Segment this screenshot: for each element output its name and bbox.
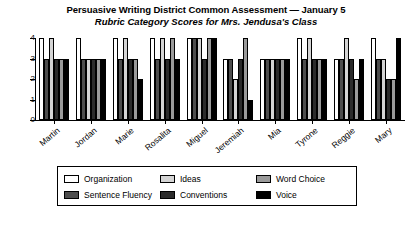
legend-item: Ideas: [160, 171, 256, 187]
x-tick-mark: [165, 120, 166, 124]
legend-item: Sentence Fluency: [64, 187, 160, 203]
legend-label: Word Choice: [276, 175, 325, 184]
y-axis-ticks: 01234: [0, 38, 35, 121]
plot-area: [36, 38, 404, 120]
x-tick-mark: [54, 120, 55, 124]
chart-title: Persuasive Writing District Common Asses…: [0, 4, 412, 16]
x-tick-mark: [349, 120, 350, 124]
legend-swatch-ideas: [160, 175, 175, 183]
bar-group: [113, 38, 143, 120]
x-tick-mark: [312, 120, 313, 124]
bar-group: [334, 38, 364, 120]
bar: [138, 79, 143, 120]
legend: OrganizationIdeasWord ChoiceSentence Flu…: [57, 166, 357, 206]
legend-swatch-conventions: [160, 191, 175, 199]
x-tick-mark: [128, 120, 129, 124]
legend-swatch-sentence-fluency: [64, 191, 79, 199]
x-tick-mark: [275, 120, 276, 124]
bar-group: [297, 38, 327, 120]
chart-container: Persuasive Writing District Common Asses…: [0, 0, 412, 228]
chart-subtitle: Rubric Category Scores for Mrs. Jendusa'…: [0, 16, 412, 28]
bar: [101, 59, 106, 121]
legend-item: Word Choice: [256, 171, 352, 187]
legend-swatch-voice: [256, 191, 271, 199]
legend-label: Conventions: [180, 191, 227, 200]
chart-title-block: Persuasive Writing District Common Asses…: [0, 4, 412, 28]
bar: [175, 59, 180, 121]
bar: [64, 59, 69, 121]
x-tick-mark: [202, 120, 203, 124]
bar-group: [76, 38, 106, 120]
bar: [322, 59, 327, 121]
bar-group: [187, 38, 217, 120]
legend-item: Voice: [256, 187, 352, 203]
legend-label: Sentence Fluency: [84, 191, 152, 200]
bar-group: [223, 38, 253, 120]
bar-group: [39, 38, 69, 120]
x-tick-mark: [386, 120, 387, 124]
x-tick-mark: [238, 120, 239, 124]
legend-label: Voice: [276, 191, 297, 200]
bar-group: [150, 38, 180, 120]
legend-label: Ideas: [180, 175, 201, 184]
bar-group: [260, 38, 290, 120]
bar: [285, 59, 290, 121]
legend-item: Organization: [64, 171, 160, 187]
legend-label: Organization: [84, 175, 132, 184]
bar-group: [371, 38, 401, 120]
legend-item: Conventions: [160, 187, 256, 203]
legend-swatch-word-choice: [256, 175, 271, 183]
x-tick-mark: [91, 120, 92, 124]
bar: [212, 38, 217, 120]
bar: [396, 38, 401, 120]
bar: [359, 59, 364, 121]
bar: [248, 100, 253, 121]
legend-swatch-organization: [64, 175, 79, 183]
